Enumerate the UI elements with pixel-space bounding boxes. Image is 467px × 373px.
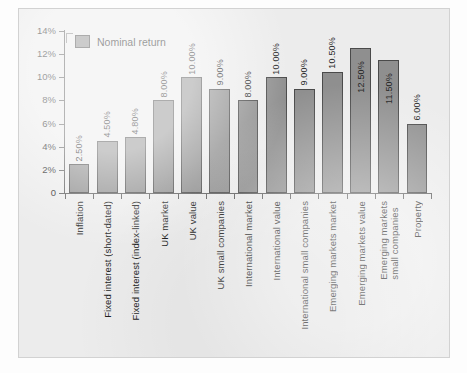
y-axis-tick-label: 2% (42, 163, 56, 176)
x-axis-label: Fixed interest (index-linked) (127, 201, 143, 321)
x-axis-tick (431, 194, 432, 199)
bar-value-label: 8.00% (158, 63, 170, 97)
x-axis-tick (347, 194, 348, 199)
y-axis-tick-label: 6% (42, 117, 56, 130)
x-axis-label-text: Emerging markets value (356, 201, 367, 306)
bar-value-text: 11.50% (383, 73, 395, 104)
x-axis-tick (149, 194, 150, 199)
scanned-page: 02%4%6%8%10%12%14% 2.50%4.50%4.80%8.00%1… (0, 0, 467, 373)
bar-value-text: 12.50% (355, 61, 367, 93)
x-axis-label: Emerging markets small companies (381, 201, 397, 280)
x-axis-label-text: Inflation (74, 201, 85, 235)
bar-value-label: 6.00% (411, 87, 423, 121)
bar-value-text: 4.80% (129, 108, 141, 135)
legend-swatch (75, 35, 90, 48)
bar-value-text: 8.00% (158, 71, 170, 98)
x-axis-tick (234, 194, 235, 199)
x-axis-tick (65, 194, 66, 199)
x-axis-tick (403, 194, 404, 199)
x-axis-tick (290, 194, 291, 199)
x-axis-label-text: Emerging markets market (327, 201, 338, 312)
bar-value-label: 10.00% (186, 40, 198, 74)
x-axis-label-text: UK market (159, 201, 170, 247)
y-axis-tick-label: 12% (37, 47, 56, 60)
bar[interactable] (181, 77, 202, 193)
x-axis-tick (121, 194, 122, 199)
x-axis-line (64, 193, 432, 194)
x-axis-label: UK value (184, 201, 200, 240)
x-axis-label-text: International small companies (299, 201, 310, 330)
bar-value-text: 6.00% (411, 94, 423, 121)
chart-panel: 02%4%6%8%10%12%14% 2.50%4.50%4.80%8.00%1… (18, 8, 450, 358)
x-axis-label-text: Property (412, 201, 423, 238)
legend-bracket (66, 33, 73, 43)
x-axis-label: UK small companies (212, 201, 228, 289)
bar[interactable] (97, 141, 118, 193)
bar[interactable] (69, 164, 90, 193)
bar[interactable] (125, 137, 146, 193)
x-axis-label-text: UK small companies (215, 201, 226, 289)
y-axis-tick-label: 14% (37, 24, 56, 37)
bar-value-text: 8.00% (242, 71, 254, 98)
bar-value-label: 11.50% (383, 70, 395, 104)
x-axis-label: International value (268, 201, 284, 281)
bar-value-label: 4.80% (129, 100, 141, 134)
bar[interactable] (294, 89, 315, 193)
y-axis-tick-label: 4% (42, 140, 56, 153)
bar-value-text: 4.50% (101, 111, 113, 138)
bar-value-text: 10.50% (326, 37, 338, 69)
x-axis-label-text: International market (243, 201, 254, 287)
bar-value-label: 8.00% (242, 63, 254, 97)
bar-value-text: 10.00% (270, 43, 282, 75)
bar-value-label: 2.50% (73, 127, 85, 161)
x-axis-label: Property (409, 201, 425, 238)
x-axis-label: International small companies (296, 201, 312, 330)
bar[interactable] (153, 100, 174, 193)
x-axis-tick (262, 194, 263, 199)
bar-value-text: 2.50% (73, 135, 85, 162)
y-axis-tick-label: 10% (37, 70, 56, 83)
x-axis-label: Fixed interest (short-dated) (99, 201, 115, 318)
bar-value-text: 9.00% (214, 59, 226, 86)
bar[interactable] (266, 77, 287, 193)
bar-value-text: 9.00% (298, 59, 310, 86)
bar[interactable] (322, 72, 343, 194)
bar[interactable] (209, 89, 230, 193)
x-axis-tick (375, 194, 376, 199)
legend-label: Nominal return (97, 36, 166, 48)
x-axis-label-text: Fixed interest (index-linked) (130, 201, 141, 321)
x-axis-tick (318, 194, 319, 199)
x-axis-tick (178, 194, 179, 199)
bar[interactable] (407, 124, 428, 193)
x-axis-label: Emerging markets market (324, 201, 340, 312)
x-axis-tick (93, 194, 94, 199)
x-axis-label-text: UK value (187, 201, 198, 240)
x-axis-label-text: Fixed interest (short-dated) (102, 201, 113, 318)
y-axis-tick-label: 0 (51, 186, 56, 199)
x-axis-label: International market (240, 201, 256, 287)
bar-value-label: 4.50% (101, 104, 113, 138)
x-axis-tick (206, 194, 207, 199)
x-axis-label-text: Emerging markets small companies (378, 201, 400, 280)
plot-area: 2.50%4.50%4.80%8.00%10.00%9.00%8.00%10.0… (65, 31, 431, 193)
x-axis-label-text: International value (271, 201, 282, 281)
bar[interactable] (238, 100, 259, 193)
x-axis-label: Emerging markets value (353, 201, 369, 306)
x-axis-label: UK market (156, 201, 172, 247)
y-axis-tick-label: 8% (42, 93, 56, 106)
bar-value-label: 9.00% (298, 52, 310, 86)
bar-value-text: 10.00% (186, 43, 198, 75)
chart-legend: Nominal return (75, 35, 166, 48)
bar-value-label: 12.50% (355, 58, 367, 92)
bar-value-label: 10.50% (326, 35, 338, 69)
bar-value-label: 9.00% (214, 52, 226, 86)
x-axis-label: Inflation (71, 201, 87, 235)
bar-value-label: 10.00% (270, 40, 282, 74)
